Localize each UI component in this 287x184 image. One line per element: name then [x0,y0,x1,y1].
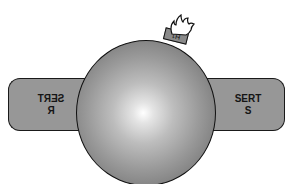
left-panel-label: SERT R [31,93,71,117]
right-panel-line1: SERT [228,93,268,105]
left-panel-line2: R [31,105,71,117]
right-panel-label: SERT S [228,93,268,117]
left-panel-line1: SERT [31,93,71,105]
flame-icon [168,14,198,36]
figure-caption [118,0,174,4]
right-panel-line2: S [228,105,268,117]
bomb-sphere [76,40,216,184]
